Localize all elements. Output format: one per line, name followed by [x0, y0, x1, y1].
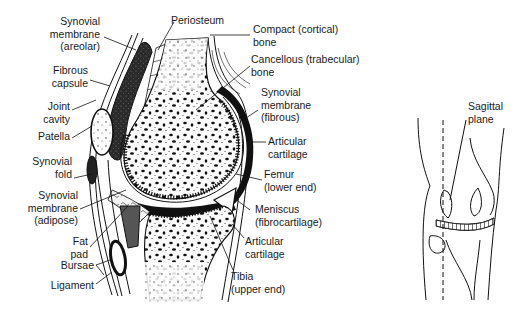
label-ligament: Ligament: [30, 279, 94, 292]
label-femur: Femur (lower end): [264, 168, 317, 193]
label-articular-cartilage-femur: Articular cartilage: [268, 135, 308, 160]
fat-pad-shape: [120, 206, 140, 248]
label-fat-pad: Fat pad: [40, 235, 88, 260]
label-synovial-membrane-fibrous: Synovial membrane (fibrous): [261, 86, 311, 124]
bursa-shape: [108, 240, 128, 276]
label-periosteum: Periosteum: [171, 14, 224, 27]
label-synovial-fold: Synovial fold: [6, 155, 72, 180]
label-synovial-membrane-areolar: Synovial membrane (areolar): [24, 15, 100, 53]
patella-shape: [91, 109, 113, 155]
label-joint-cavity: Joint cavity: [6, 100, 70, 125]
label-compact-bone: Compact (cortical) bone: [253, 23, 338, 48]
inset-knee-illustration: [418, 118, 504, 300]
label-patella: Patella: [6, 130, 70, 143]
knee-joint-diagram: Synovial membrane (areolar) Fibrous caps…: [0, 0, 528, 311]
label-tibia: Tibia (upper end): [231, 270, 285, 295]
label-meniscus: Meniscus (fibrocartilage): [255, 203, 322, 228]
label-sagittal-plane: Sagittal plane: [468, 100, 503, 125]
label-cancellous-bone: Cancellous (trabecular) bone: [251, 53, 360, 78]
label-bursae: Bursae: [40, 259, 94, 272]
label-synovial-membrane-adipose: Synovial membrane (adipose): [6, 189, 78, 227]
label-articular-cartilage-tibia: Articular cartilage: [245, 235, 285, 260]
label-fibrous-capsule: Fibrous capsule: [16, 64, 88, 89]
